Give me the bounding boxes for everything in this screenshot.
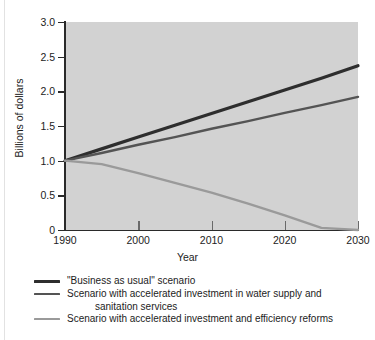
legend-label-line1: Scenario with accelerated investment in … <box>67 288 322 299</box>
series-line-investment-and-efficiency <box>65 161 358 230</box>
legend-swatch-line-icon <box>34 318 60 320</box>
legend-item-accelerated-investment: Scenario with accelerated investment in … <box>34 288 369 313</box>
legend-label: Scenario with accelerated investment and… <box>67 313 333 326</box>
series-layer <box>0 0 375 272</box>
legend-label: "Business as usual" scenario <box>67 275 195 288</box>
legend-item-investment-and-efficiency: Scenario with accelerated investment and… <box>34 313 369 326</box>
legend-item-business-as-usual: "Business as usual" scenario <box>34 275 369 288</box>
figure: 3.0 2.5 2.0 1.5 1.0 0.5 0 1990 2000 2010… <box>0 0 375 340</box>
chart-legend: "Business as usual" scenario Scenario wi… <box>0 272 375 340</box>
legend-swatch-line-icon <box>34 293 60 295</box>
series-line-accelerated-investment <box>65 97 358 161</box>
legend-label-line2: sanitation services <box>67 301 322 314</box>
series-line-business-as-usual <box>65 66 358 161</box>
line-chart: 3.0 2.5 2.0 1.5 1.0 0.5 0 1990 2000 2010… <box>0 0 375 272</box>
legend-label: Scenario with accelerated investment in … <box>67 288 322 313</box>
legend-swatch-line-icon <box>34 280 60 283</box>
